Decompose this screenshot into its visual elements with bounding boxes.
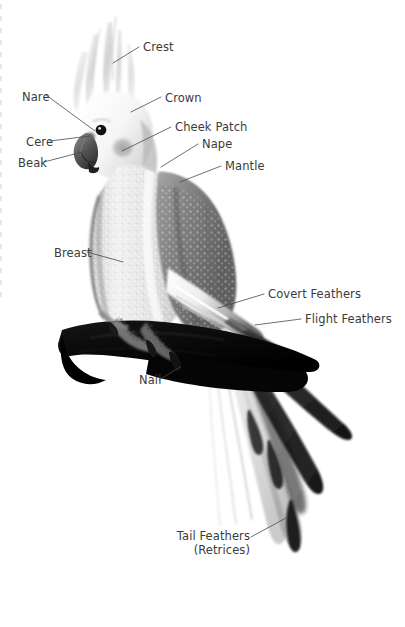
crown-leader xyxy=(131,97,161,112)
label-cere: Cere xyxy=(26,136,53,150)
flight-leader xyxy=(255,319,301,325)
label-cheek-patch: Cheek Patch xyxy=(175,121,247,135)
label-tail-feathers-line-2: (Retrices) xyxy=(177,544,250,558)
covert-leader xyxy=(218,294,264,308)
label-nape: Nape xyxy=(202,138,232,152)
tail-leader xyxy=(251,518,286,537)
diagram-page: CrestNareCrownCheek PatchCereNapeBeakMan… xyxy=(0,0,405,627)
cere-leader xyxy=(50,136,90,141)
label-covert: Covert Feathers xyxy=(268,288,361,302)
mantle-leader xyxy=(180,166,221,182)
nare-leader xyxy=(46,95,95,131)
label-nare: Nare xyxy=(22,91,50,105)
label-mantle: Mantle xyxy=(225,160,265,174)
label-flight: Flight Feathers xyxy=(305,313,392,327)
label-breast: Breast xyxy=(54,247,92,261)
nape-leader xyxy=(161,144,198,167)
nail-leader xyxy=(159,367,180,380)
label-crest: Crest xyxy=(143,41,174,55)
label-tail-feathers-line-1: Tail Feathers xyxy=(177,530,250,544)
crest-leader xyxy=(113,47,139,63)
breast-leader xyxy=(87,252,123,262)
label-nail: Nail xyxy=(139,374,161,388)
label-tail-feathers: Tail Feathers(Retrices) xyxy=(177,530,250,557)
beak-leader xyxy=(44,150,90,162)
cheek-leader xyxy=(122,127,171,151)
label-crown: Crown xyxy=(165,92,202,106)
label-beak: Beak xyxy=(18,157,47,171)
